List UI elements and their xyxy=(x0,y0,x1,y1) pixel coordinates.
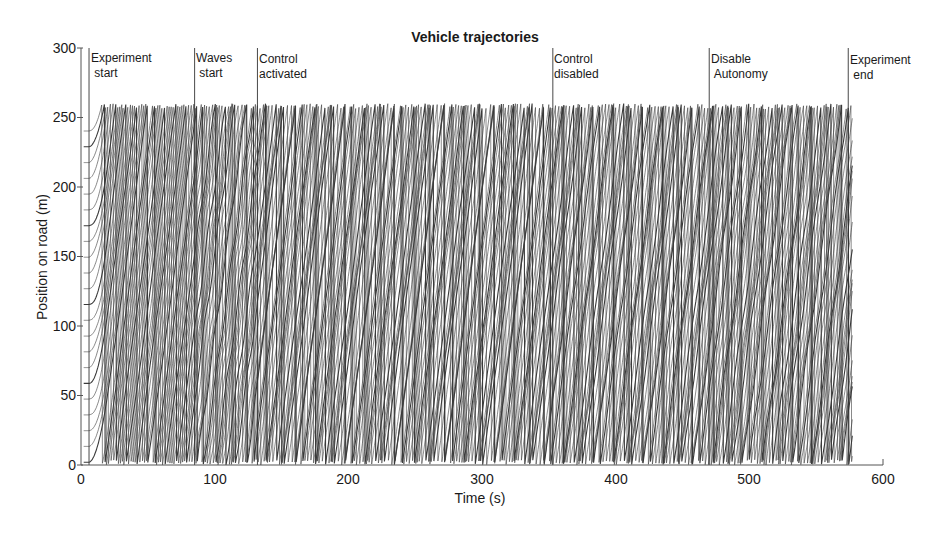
y-axis-label: Position on road (m) xyxy=(34,157,52,357)
x-tick-500: 500 xyxy=(724,471,774,487)
x-tick-0: 0 xyxy=(56,471,106,487)
event-label-waves-start: Waves start xyxy=(196,51,232,81)
chart-title: Vehicle trajectories xyxy=(0,29,950,45)
event-label-experiment-end: Experiment end xyxy=(850,53,911,83)
event-label-control-disabled: Controldisabled xyxy=(554,52,599,82)
x-axis-label: Time (s) xyxy=(380,490,580,506)
chart-title-text: Vehicle trajectories xyxy=(411,29,539,45)
x-tick-100: 100 xyxy=(190,471,240,487)
event-label-disable-autonomy: Disable Autonomy xyxy=(711,52,768,82)
x-tick-200: 200 xyxy=(323,471,373,487)
y-tick-300: 300 xyxy=(36,40,76,56)
x-tick-400: 400 xyxy=(591,471,641,487)
x-tick-300: 300 xyxy=(457,471,507,487)
y-tick-250: 250 xyxy=(36,109,76,125)
trajectory-lines xyxy=(84,104,853,465)
event-label-experiment-start: Experiment start xyxy=(91,51,152,81)
x-tick-600: 600 xyxy=(858,471,908,487)
event-label-control-activated: Controlactivated xyxy=(259,52,307,82)
y-tick-50: 50 xyxy=(36,387,76,403)
